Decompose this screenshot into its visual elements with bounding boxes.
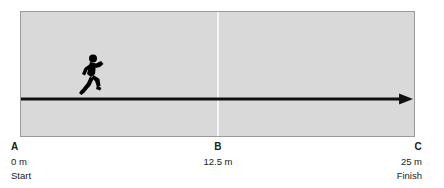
midpoint-gridline [217,12,219,136]
marker-distance-a: 0 m [11,155,31,170]
marker-note-c: Finish [358,169,422,184]
marker-distance-c: 25 m [358,155,422,170]
marker-label-c: C 25 m Finish [358,140,422,184]
marker-note-a: Start [11,169,31,184]
running-person-icon [77,54,104,97]
marker-distance-b: 12.5 m [183,155,253,170]
marker-label-a: A 0 m Start [11,140,31,184]
marker-point-a: A [11,140,31,155]
motion-diagram-panel [20,11,415,137]
marker-point-b: B [183,140,253,155]
marker-label-b: B 12.5 m [183,140,253,169]
marker-point-c: C [358,140,422,155]
